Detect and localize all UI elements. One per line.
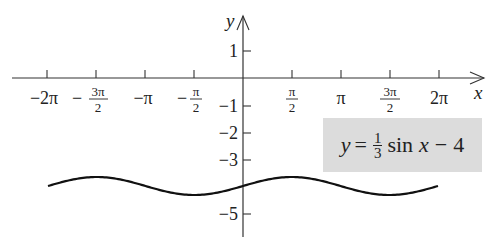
y-tick-label: −5 xyxy=(219,204,238,224)
x-tick-label-den: 2 xyxy=(95,100,102,115)
equation-arg: x xyxy=(419,132,429,158)
x-tick-label-den: 2 xyxy=(387,100,394,115)
y-tick-label: −3 xyxy=(219,150,238,170)
x-tick-label-num: 3π xyxy=(91,84,105,99)
fraction-numerator: 1 xyxy=(373,131,383,146)
x-tick-label-num: 3π xyxy=(383,84,397,99)
x-axis-label: x xyxy=(473,82,483,103)
y-axis-label: y xyxy=(224,10,235,31)
y-tick-label: −2 xyxy=(219,123,238,143)
x-tick-label: −π xyxy=(133,88,152,108)
x-tick-label-den: 2 xyxy=(193,100,200,115)
equation-equals: = xyxy=(354,132,366,158)
equation-func: sin xyxy=(387,132,413,158)
y-tick-labels: 1 −1 −2 −3 −5 xyxy=(219,41,238,224)
x-tick-label-num: π xyxy=(289,84,296,99)
equation-box: y = 1 3 sin x − 4 xyxy=(323,118,482,172)
fraction-denominator: 3 xyxy=(374,146,382,160)
x-tick-label: π xyxy=(336,88,345,108)
equation-op: − xyxy=(435,132,447,158)
x-tick-label-num: π xyxy=(193,84,200,99)
equation-fraction: 1 3 xyxy=(373,131,383,160)
x-tick-label-den: 2 xyxy=(289,100,296,115)
x-tick-label-sign: − xyxy=(72,88,82,108)
x-tick-labels: −2π − 3π 2 −π − π 2 π 2 π 3π 2 2π xyxy=(30,84,448,115)
equation-lhs: y xyxy=(341,132,351,158)
equation-const: 4 xyxy=(453,132,464,158)
x-tick-label-sign: − xyxy=(177,88,187,108)
y-tick-label: 1 xyxy=(229,41,238,61)
y-tick-label: −1 xyxy=(219,96,238,116)
x-tick-label: 2π xyxy=(430,88,448,108)
x-tick-label: −2π xyxy=(30,88,58,108)
y-ticks xyxy=(243,51,251,214)
